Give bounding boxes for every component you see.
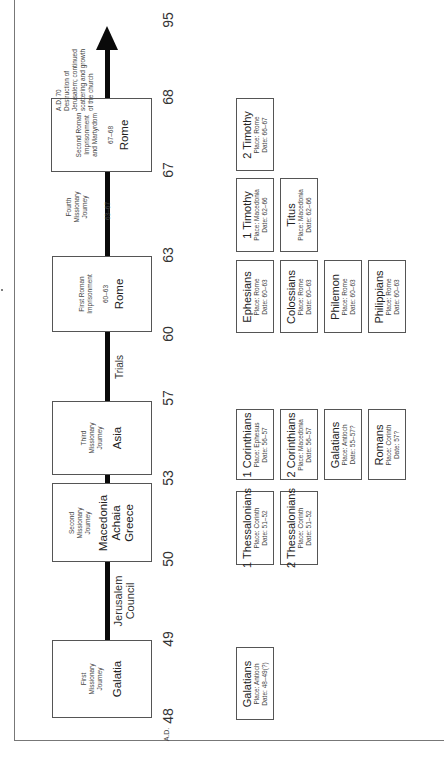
event-years: 60–63 [102,285,109,303]
event-label: Imprisonment [82,115,90,154]
epistle-date: Date: 60–63 [393,279,401,314]
event-first-journey: First Missionary Journey Galatia [52,640,152,718]
frame-bottom-border [14,740,444,741]
fourth-journey-line: Journey [81,182,89,232]
event-place: Macedonia [97,494,110,550]
epistle-philemon: Philemon Place: Rome Date: 60–63 [324,260,362,333]
ad70-note: A.D. 70 Destruction of Jerusalem; contin… [55,27,101,111]
epistle-place: Place: Ephesus [253,422,261,467]
council-line: Jerusalem [112,573,124,629]
epistle-place: Place: Rome [385,278,393,315]
event-first-imprisonment: First Roman Imprisonment 60–63 Rome [52,256,152,332]
ad70-line: Jerusalem; continued [71,27,79,111]
epistle-title: 1 Corinthians [241,412,253,477]
epistle-1-thessalonians: 1 Thessalonians Place: Corinth Date: 51–… [236,491,274,565]
year-label: 50 [158,548,178,570]
council-line: Council [124,573,136,629]
event-second-journey: Second Missionary Journey Macedonia Acha… [52,483,152,562]
event-label: Third [80,431,88,446]
event-label: First Roman [78,276,86,311]
epistle-place: Place: Rome [253,278,261,315]
epistle-place: Place: Antioch [341,424,349,465]
epistle-1-corinthians: 1 Corinthians Place: Ephesus Date: 56–57 [236,409,274,480]
event-place: Achaia [110,505,123,540]
epistle-date: Date: 66–67 [261,117,269,152]
epistle-title: 1 Thessalonians [241,488,253,568]
year-label: 57 [158,387,178,409]
year-label: 60 [158,323,178,345]
epistle-date: Date: 56–57 [261,427,269,462]
epistle-date: Date: 51–52 [305,510,313,545]
event-third-journey: Third Missionary Journey Asia [52,401,152,475]
event-label: and Martyrdom [90,113,98,157]
epistle-colossians: Colossians Place: Rome Date: 60–63 [280,260,318,333]
timeline-axis-segment [105,46,110,99]
epistle-date: Date: 62–66 [305,197,313,232]
event-label: Journey [84,511,92,534]
event-label: Missionary [88,663,96,694]
year-label: 48 [158,705,178,727]
event-label: Second Roman [74,113,82,158]
epistle-place: Place: Rome [297,278,305,315]
epistle-date: Date: 60–63 [349,279,357,314]
epistle-place: Place: Antioch [253,663,261,704]
year-label: 53 [158,467,178,489]
epistle-title: Galatians [329,421,341,467]
epistle-date: Date: 60–63 [305,279,313,314]
scan-speck [1,289,3,291]
epistle-philippians: Philippians Place: Rome Date: 60–63 [368,260,406,333]
jerusalem-council-label: Jerusalem Council [112,573,138,629]
epistle-ephesians: Ephesians Place: Rome Date: 60–63 [236,260,274,333]
event-label: Missionary [76,507,84,538]
epistle-place: Place: Rome [341,278,349,315]
frame-left-border [14,0,15,741]
trials-label: Trials [114,349,128,385]
timeline-axis-segment [105,331,110,402]
epistle-date: Date: 57? [393,430,401,458]
epistle-title: 2 Thessalonians [285,488,297,568]
year-label: 63 [158,244,178,266]
event-place: Asia [111,427,124,449]
event-label: Missionary [88,422,96,453]
epistle-romans: Romans Place: Corinth Date: 57? [368,409,406,480]
event-place: Rome [117,120,130,151]
fourth-journey-label: Fourth Missionary Journey [65,182,91,232]
epistle-title: Romans [373,424,385,465]
epistle-title: Ephesians [241,271,253,322]
epistle-place: Place: Macedonia [297,189,305,241]
epistle-title: Titus [285,203,297,226]
epistle-galatians-early: Galatians Place: Antioch Date: 48–49(?) [236,647,274,720]
ad70-line: Destruction of [63,27,71,111]
fourth-journey-years: 63–67 [104,196,114,226]
event-label: Imprisonment [86,274,94,313]
epistle-place: Place: Corinth [297,508,305,549]
event-place: Galatia [111,661,124,697]
epistle-galatians-later: Galatians Place: Antioch Date: 55–57? [324,409,362,480]
epistle-title: Philippians [373,270,385,323]
fourth-journey-line: Missionary [73,182,81,232]
event-label: First [80,673,88,686]
epistle-place: Place: Macedonia [297,419,305,471]
ad-prefix-label: A.D. [163,728,170,742]
epistle-date: Date: 51–52 [261,510,269,545]
year-label: 67 [158,159,178,181]
epistle-title: 2 Timothy [241,111,253,159]
ad70-line: of the church [87,27,95,111]
event-label: Journey [96,667,104,690]
epistle-place: Place: Corinth [385,424,393,465]
year-label: 49 [158,628,178,650]
epistle-place: Place: Corinth [253,508,261,549]
event-label: Second [68,511,76,533]
year-label: 68 [158,86,178,108]
ad70-line: scattering and growth [79,27,87,111]
ad70-line: A.D. 70 [55,27,63,111]
epistle-title: Galatians [241,660,253,706]
epistle-title: 1 Timothy [241,191,253,239]
epistle-1-timothy: 1 Timothy Place: Macedonia Date: 62–66 [236,178,274,252]
epistle-date: Date: 56–57 [305,427,313,462]
epistle-2-timothy: 2 Timothy Place: Rome Date: 66–67 [236,98,274,171]
event-place: Rome [113,279,126,310]
epistle-2-thessalonians: 2 Thessalonians Place: Corinth Date: 51–… [280,491,318,565]
fourth-journey-line: Fourth [65,182,73,232]
epistle-title: 2 Corinthians [285,412,297,477]
